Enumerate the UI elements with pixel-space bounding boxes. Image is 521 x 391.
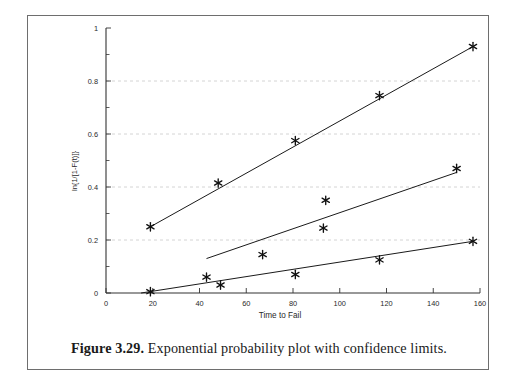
fit-lines [141, 47, 473, 293]
y-tick-label: 0.6 [88, 130, 98, 139]
x-axis-tick-labels: 020406080100120140160 [104, 299, 486, 308]
plot-area: 020406080100120140160 00.20.40.60.81 Tim… [28, 16, 490, 328]
x-axis-ticks [106, 288, 480, 293]
data-point-marker [215, 179, 222, 187]
y-axis-title: ln{1/[1-F(t)]} [70, 150, 79, 191]
y-tick-label: 1 [94, 24, 98, 33]
x-axis-title: Time to Fail [259, 311, 302, 320]
data-point-marker [376, 91, 383, 99]
x-tick-label: 160 [474, 299, 486, 308]
x-tick-label: 0 [104, 299, 108, 308]
data-point-marker [292, 136, 299, 144]
grid-lines [106, 81, 480, 240]
figure-caption-label: Figure 3.29. [71, 340, 144, 356]
exponential-probability-plot: 020406080100120140160 00.20.40.60.81 Tim… [28, 16, 490, 328]
fit-line [207, 172, 457, 258]
y-tick-label: 0.2 [88, 236, 98, 245]
data-point-marker [217, 281, 224, 289]
x-tick-label: 80 [289, 299, 297, 308]
data-point-marker [320, 224, 327, 232]
data-point-marker [147, 223, 154, 231]
x-tick-label: 40 [195, 299, 203, 308]
y-tick-label: 0 [94, 289, 98, 298]
figure-caption-text: Exponential probability plot with confid… [144, 340, 447, 356]
data-point-marker [322, 196, 329, 204]
data-markers [147, 42, 477, 296]
x-tick-label: 60 [242, 299, 250, 308]
y-axis-ticks [106, 28, 111, 293]
x-tick-label: 20 [149, 299, 157, 308]
data-point-marker [376, 256, 383, 264]
fit-line [150, 47, 473, 227]
x-tick-label: 100 [334, 299, 346, 308]
x-tick-label: 140 [427, 299, 439, 308]
axis-lines [106, 28, 480, 293]
y-tick-label: 0.8 [88, 77, 98, 86]
figure-caption-container: Figure 3.29. Exponential probability plo… [28, 328, 490, 369]
figure-frame: 020406080100120140160 00.20.40.60.81 Tim… [27, 15, 489, 370]
x-tick-label: 120 [380, 299, 392, 308]
fit-line [141, 241, 473, 293]
y-axis-tick-labels: 00.20.40.60.81 [88, 24, 98, 298]
data-point-marker [453, 164, 460, 172]
figure-caption: Figure 3.29. Exponential probability plo… [71, 340, 447, 357]
data-point-marker [203, 273, 210, 281]
data-point-marker [259, 250, 266, 258]
y-tick-label: 0.4 [88, 183, 98, 192]
data-point-marker [469, 42, 476, 50]
data-point-marker [292, 270, 299, 278]
figure-page: 020406080100120140160 00.20.40.60.81 Tim… [0, 0, 521, 391]
